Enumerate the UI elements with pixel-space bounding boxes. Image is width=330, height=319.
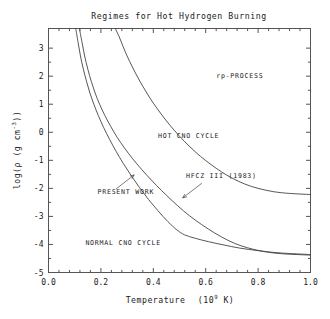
x-tick-label: 0.6 bbox=[198, 278, 213, 287]
x-tick-label: 0.2 bbox=[94, 278, 109, 287]
y-axis-label-post: )) bbox=[12, 111, 22, 122]
boundary-curve bbox=[115, 29, 310, 195]
chart-title: Regimes for Hot Hydrogen Burning bbox=[91, 11, 266, 21]
y-tick-label: 2 bbox=[39, 72, 44, 81]
boundary-curve bbox=[79, 29, 310, 256]
x-tick-label: 0.0 bbox=[41, 278, 56, 287]
y-axis-tick-labels: 3210-1-2-3-4-5 bbox=[34, 44, 44, 277]
normal-cno-cycle-label: NORMAL CNO CYCLE bbox=[85, 239, 161, 247]
chart-figure: Regimes for Hot Hydrogen Burning 0.00.20… bbox=[0, 0, 330, 319]
y-tick-label: -4 bbox=[34, 240, 44, 249]
hfcz-leader bbox=[183, 183, 202, 198]
x-tick-label: 0.4 bbox=[146, 278, 161, 287]
plot-frame bbox=[49, 29, 311, 273]
y-axis-label-exponent: -3 bbox=[11, 122, 17, 130]
x-axis-units-pre: (10 bbox=[198, 295, 214, 305]
plot-annotations: rp-PROCESSHOT CNO CYCLEHFCZ III (1983)PR… bbox=[85, 72, 263, 248]
axis-tick-marks bbox=[49, 29, 311, 273]
x-tick-label: 0.8 bbox=[251, 278, 266, 287]
x-tick-label: 1.0 bbox=[303, 278, 318, 287]
y-axis-label-pre: log(ρ (g cm bbox=[12, 129, 22, 189]
hot-cno-cycle-label: HOT CNO CYCLE bbox=[158, 132, 219, 140]
x-axis-units-post: K) bbox=[218, 295, 234, 305]
x-axis-tick-labels: 0.00.20.40.60.81.0 bbox=[41, 278, 318, 287]
y-axis-label: log(ρ (g cm-3)) bbox=[11, 111, 22, 189]
curve-group bbox=[76, 29, 311, 256]
y-tick-label: 3 bbox=[39, 44, 44, 53]
hfcz-label: HFCZ III (1983) bbox=[186, 172, 257, 180]
regimes-hot-hydrogen-burning-plot: Regimes for Hot Hydrogen Burning 0.00.20… bbox=[0, 0, 330, 319]
x-axis-label-text: Temperature bbox=[126, 295, 186, 305]
y-tick-label: -2 bbox=[34, 184, 44, 193]
rp-process-label: rp-PROCESS bbox=[216, 72, 263, 80]
y-tick-label: -5 bbox=[34, 269, 44, 278]
boundary-curve bbox=[76, 29, 311, 255]
y-tick-label: 0 bbox=[39, 128, 44, 137]
y-tick-label: 1 bbox=[39, 100, 44, 109]
x-axis-label: Temperature (109 K) bbox=[126, 294, 235, 305]
present-work-leader bbox=[116, 175, 134, 189]
y-tick-label: -3 bbox=[34, 212, 44, 221]
present-work-label: PRESENT WORK bbox=[97, 188, 154, 196]
y-tick-label: -1 bbox=[34, 156, 44, 165]
